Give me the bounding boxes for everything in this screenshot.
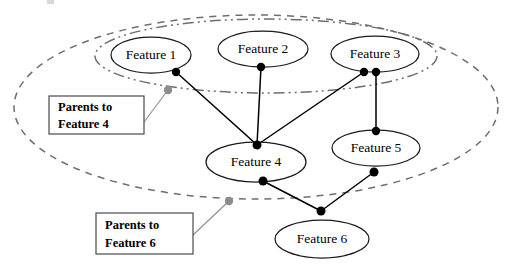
node-feature3-label: Feature 3 <box>350 46 401 61</box>
node-feature1[interactable]: Feature 1 <box>111 37 191 73</box>
callout-parents-to-feature-4-leader <box>144 90 168 122</box>
junction-dot-feature3-bottom-right <box>372 68 380 76</box>
junction-dot-feature4-top <box>253 141 262 150</box>
junction-dot-feature1-bottom <box>172 68 180 76</box>
node-feature5[interactable]: Feature 5 <box>332 130 420 166</box>
callout-parents-to-feature-4-line2: Feature 4 <box>58 117 110 131</box>
callout-parents-to-feature-6-line1: Parents to <box>105 218 159 232</box>
node-feature5-label: Feature 5 <box>351 140 402 155</box>
callout-parents-to-feature-4-anchor-dot <box>164 86 172 94</box>
junction-dot-feature5-bottom <box>370 168 379 177</box>
edge-feature5-to-feature6 <box>321 172 374 211</box>
callout-parents-to-feature-6: Parents to Feature 6 <box>96 197 233 254</box>
edge-feature4-to-feature6 <box>263 181 321 211</box>
node-feature4-label: Feature 4 <box>231 154 282 169</box>
callout-parents-to-feature-4: Parents to Feature 4 <box>49 86 172 134</box>
callout-parents-to-feature-6-leader <box>193 201 229 235</box>
edge-feature1-to-feature4 <box>176 72 257 145</box>
feature-dependency-diagram: Feature 1 Feature 2 Feature 3 Feature 4 … <box>0 0 516 269</box>
diagram-canvas: Feature 1 Feature 2 Feature 3 Feature 4 … <box>0 0 516 269</box>
node-feature1-label: Feature 1 <box>126 47 177 62</box>
junction-dot-feature6-top <box>317 207 326 216</box>
edge-feature2-to-feature4 <box>257 67 261 145</box>
callout-parents-to-feature-6-line2: Feature 6 <box>105 236 156 250</box>
junction-dot-feature5-top <box>372 127 380 135</box>
junction-dot-feature4-bottom <box>259 177 268 186</box>
junction-dot-feature3-bottom-left <box>360 68 368 76</box>
top-edge-smudge <box>47 0 54 4</box>
callout-parents-to-feature-6-anchor-dot <box>225 197 233 205</box>
junction-dot-feature2-bottom <box>257 63 265 71</box>
node-feature6[interactable]: Feature 6 <box>275 220 369 258</box>
callout-parents-to-feature-4-line1: Parents to <box>58 100 112 114</box>
node-feature2-label: Feature 2 <box>238 41 289 56</box>
node-feature2[interactable]: Feature 2 <box>218 31 308 67</box>
node-feature6-label: Feature 6 <box>297 231 348 246</box>
node-feature3[interactable]: Feature 3 <box>331 36 419 72</box>
